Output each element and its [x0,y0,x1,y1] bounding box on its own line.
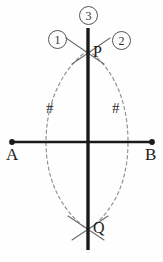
step-marker-2-label: 2 [119,35,125,47]
step-marker-3: 3 [79,6,98,25]
step-marker-3-label: 3 [86,10,92,22]
arc-from-b [88,50,128,230]
geometry-figure: A B P Q 1 2 3 # # [0,0,163,262]
arc-from-a [46,50,88,230]
tick-mark-right: # [112,101,120,116]
point-q-label: Q [93,220,105,236]
point-a-label: A [6,146,18,163]
point-b-label: B [145,146,156,163]
point-p-label: P [93,44,102,60]
geometry-canvas [0,0,163,262]
step-marker-1-label: 1 [55,34,61,46]
tick-mark-left: # [46,101,54,116]
step-marker-1: 1 [48,30,67,49]
step-marker-2: 2 [112,31,131,50]
arc-crossing-top-right-icon [72,38,110,64]
